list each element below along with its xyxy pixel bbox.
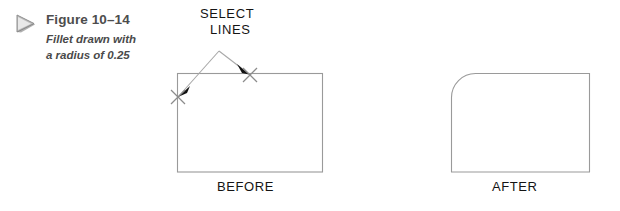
after-rectangle-filleted xyxy=(452,74,590,173)
before-rectangle xyxy=(178,74,323,173)
leader-line-right xyxy=(219,51,249,74)
before-label: BEFORE xyxy=(217,179,274,194)
select-lines-label-line-1: SELECT xyxy=(200,6,254,21)
x-mark-right xyxy=(243,68,257,82)
select-lines-label-line-2: LINES xyxy=(210,22,251,37)
after-label: AFTER xyxy=(492,179,538,194)
